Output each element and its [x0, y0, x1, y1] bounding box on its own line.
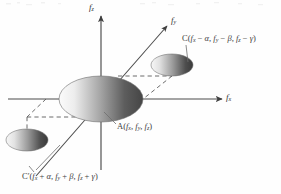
- dash-Cp-diagonal: [27, 99, 46, 117]
- point-label-A: A(fx, fy, fz): [117, 122, 152, 131]
- disk-A: [59, 76, 143, 122]
- point-Cp-suffix: ): [95, 171, 98, 181]
- point-A-suffix: ): [149, 121, 152, 131]
- disk-C-prime: [6, 129, 48, 151]
- axis-label-fy: fy: [171, 16, 176, 25]
- point-C-prefix: C(: [182, 33, 191, 43]
- axis-label-fx: fx: [226, 93, 231, 102]
- disk-C: [151, 54, 193, 76]
- point-Cp-prefix: C′(: [22, 171, 32, 181]
- point-C-term2-op: −: [241, 33, 250, 43]
- axis-label-fz: fz: [89, 3, 94, 12]
- point-Cp-term1-op: +: [60, 171, 69, 181]
- point-C-suffix: ): [253, 33, 256, 43]
- axis-fy-sub: y: [174, 19, 177, 25]
- dash-C-diagonal: [143, 76, 172, 99]
- point-Cp-term2-op: +: [82, 171, 91, 181]
- axis-fz-sub: z: [92, 6, 94, 12]
- point-A-prefix: A(: [117, 121, 126, 131]
- diagram-canvas: fz fy fx A(fx, fy, fz) C(fx − α, fy − β,…: [0, 0, 281, 194]
- point-label-C: C(fx − α, fy − β, fz − γ): [182, 34, 256, 43]
- diagram-svg: [0, 0, 281, 194]
- point-label-C-prime: C′(fx + α, fy + β, fz + γ): [22, 172, 98, 181]
- point-C-term0-op: −: [196, 33, 205, 43]
- axis-fx-sub: x: [229, 96, 232, 102]
